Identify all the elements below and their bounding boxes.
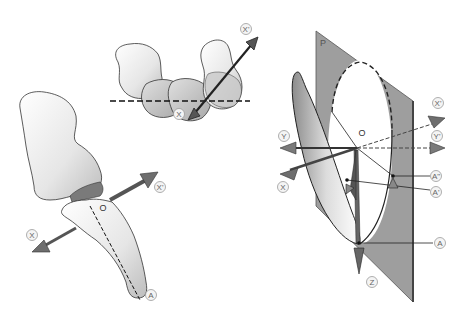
- metacarpal-bone: [61, 199, 146, 298]
- arrowhead-z-icon: [354, 248, 364, 274]
- label-y-prime: Y': [434, 132, 441, 141]
- label-a-double-prime: A": [432, 172, 440, 181]
- geometric-model-panel: P O: [278, 31, 446, 302]
- label-y: Y: [281, 132, 287, 141]
- label-x-prime: X': [157, 183, 164, 192]
- flexion-axis-arrow: [44, 228, 76, 246]
- label-x: X: [29, 231, 35, 240]
- flexion-axis-arrow-prime: [110, 180, 146, 200]
- label-a: A: [437, 239, 443, 248]
- label-x: X: [176, 110, 182, 119]
- label-a: A: [148, 291, 154, 300]
- trapeziometacarpal-panel: O X X' A: [20, 92, 166, 301]
- trapezium-bone: [20, 92, 102, 200]
- label-o: O: [99, 203, 106, 213]
- label-x-prime: X': [243, 25, 250, 34]
- arrowhead-x-icon: [32, 240, 50, 252]
- label-x: X: [280, 183, 286, 192]
- label-a-prime: A': [433, 188, 440, 197]
- arrowhead-x-prime-icon: [428, 116, 445, 128]
- arrowhead-y-icon: [280, 142, 296, 154]
- label-o: O: [358, 128, 365, 138]
- carpal-bones-panel: X X': [110, 24, 258, 121]
- arrowhead-x-icon: [280, 168, 298, 180]
- label-p: P: [320, 38, 326, 48]
- label-z: Z: [370, 278, 375, 287]
- diagram-canvas: X X' O X X' A P: [0, 0, 464, 321]
- arrowhead-y-prime-icon: [430, 142, 445, 154]
- label-x-prime: X': [435, 99, 442, 108]
